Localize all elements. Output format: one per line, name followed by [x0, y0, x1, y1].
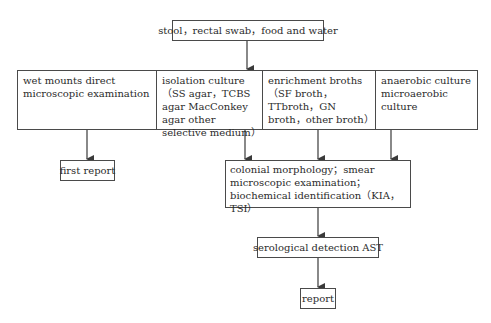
method-label: enrichment broths（SF broth，TTbroth，GN br…: [268, 75, 374, 125]
method-enrichment-broths: enrichment broths（SF broth，TTbroth，GN br…: [263, 71, 376, 129]
method-label: anaerobic culture microaerobic culture: [381, 75, 471, 112]
final-report-label: report: [302, 292, 334, 305]
serology-label: serological detection AST: [253, 241, 383, 254]
method-anaerobic-culture: anaerobic culture microaerobic culture: [376, 71, 477, 129]
method-label: wet mounts direct microscopic examinatio…: [23, 75, 150, 99]
first-report-label: first report: [60, 164, 116, 177]
identification-node: colonial morphology；smear microscopic ex…: [225, 160, 411, 208]
methods-row: wet mounts direct microscopic examinatio…: [17, 70, 478, 130]
method-isolation-culture: isolation culture（SS agar，TCBS agar MacC…: [157, 71, 263, 129]
first-report-node: first report: [60, 160, 115, 181]
serology-node: serological detection AST: [257, 237, 379, 258]
method-label: isolation culture（SS agar，TCBS agar MacC…: [162, 75, 261, 138]
source-node: stool，rectal swab，food and water: [172, 20, 324, 41]
identification-label: colonial morphology；smear microscopic ex…: [230, 164, 400, 214]
source-node-label: stool，rectal swab，food and water: [158, 24, 338, 37]
method-wet-mounts: wet mounts direct microscopic examinatio…: [18, 71, 157, 129]
final-report-node: report: [300, 288, 336, 309]
